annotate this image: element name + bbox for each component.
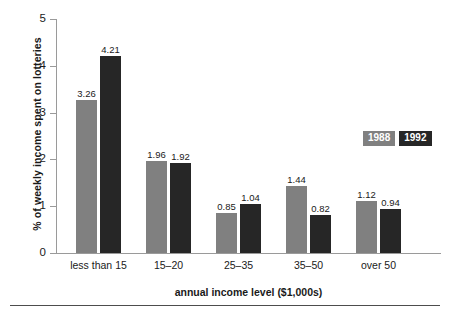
bar-chart: % of weekly income spent on lotteries 54…: [0, 0, 452, 318]
bar-value-label-1988-3: 1.44: [280, 174, 313, 185]
y-axis-tick-mark: [50, 66, 56, 67]
y-axis-tick: 4: [0, 66, 452, 67]
y-axis-tick-mark: [50, 159, 56, 160]
bar-1988-1: [146, 161, 167, 253]
bar-1992-2: [240, 204, 261, 253]
legend-item-1988[interactable]: 1988: [363, 131, 395, 146]
y-axis-tick-mark: [50, 19, 56, 20]
bar-1992-1: [170, 163, 191, 253]
bar-value-label-1992-3: 0.82: [304, 203, 337, 214]
bar-value-label-1988-0: 3.26: [70, 88, 103, 99]
bar-1992-4: [380, 209, 401, 253]
legend-item-1992[interactable]: 1992: [399, 131, 431, 146]
y-axis-tick-label: 1: [30, 200, 46, 211]
bar-value-label-1992-1: 1.92: [164, 151, 197, 162]
footer-divider: [10, 305, 440, 306]
bar-1988-3: [286, 186, 307, 253]
bar-1992-3: [310, 215, 331, 253]
y-axis-tick-mark: [50, 206, 56, 207]
y-axis-tick: 5: [0, 19, 452, 20]
bar-1992-0: [100, 56, 121, 253]
bar-value-label-1992-4: 0.94: [374, 197, 407, 208]
y-axis-line: [56, 19, 57, 254]
y-axis-tick-mark: [50, 113, 56, 114]
y-axis-tick-label: 2: [30, 153, 46, 164]
bar-value-label-1992-2: 1.04: [234, 192, 267, 203]
x-axis-title: annual income level ($1,000s): [56, 286, 441, 298]
x-axis-category-label-4: over 50: [334, 259, 424, 271]
y-axis-tick-label: 0: [30, 247, 46, 258]
x-axis-line: [56, 253, 441, 254]
y-axis-tick-label: 5: [30, 13, 46, 24]
legend: 1988 1992: [363, 131, 432, 146]
y-axis-title: % of weekly income spent on lotteries: [31, 9, 43, 259]
bar-1988-4: [356, 201, 377, 253]
bar-1988-0: [76, 100, 97, 253]
y-axis-tick: 2: [0, 159, 452, 160]
y-axis-tick: 3: [0, 113, 452, 114]
bar-value-label-1992-0: 4.21: [94, 44, 127, 55]
y-axis-tick-label: 3: [30, 107, 46, 118]
y-axis-tick-label: 4: [30, 60, 46, 71]
bar-1988-2: [216, 213, 237, 253]
